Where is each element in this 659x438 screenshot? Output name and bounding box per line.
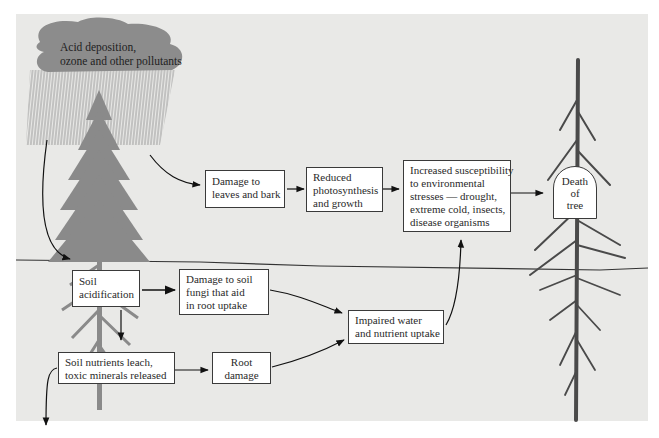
node-soil-acidification: Soil acidification [72,270,140,307]
node-reduced-photosynthesis: Reduced photosynthesis and growth [306,167,383,212]
node-impaired-uptake: Impaired water and nutrient uptake [348,310,444,344]
node-death-of-tree: Death of tree [553,166,597,219]
arrow-impaired-to-susc [446,240,461,325]
arrow-leach-down [46,368,57,425]
node-increased-susceptibility: Increased susceptibility to environmenta… [403,160,511,232]
arrow-source-to-leaves [150,155,200,185]
arrow-fungi-to-impaired [270,290,342,313]
arrow-root-to-impaired [272,340,344,367]
node-root-damage: Root damage [212,352,271,384]
node-soil-fungi-damage: Damage to soil fungi that aid in root up… [179,269,269,315]
pollution-source-label: Acid deposition, ozone and other polluta… [60,40,182,68]
node-leaves-damage: Damage to leaves and bark [205,170,285,208]
dead-tree-icon [530,60,625,420]
node-nutrients-leach: Soil nutrients leach, toxic minerals rel… [58,352,175,384]
